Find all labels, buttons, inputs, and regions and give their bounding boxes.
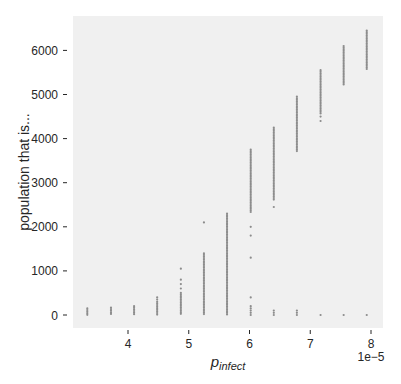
data-point — [180, 313, 182, 315]
data-point — [250, 235, 252, 237]
data-point — [366, 68, 368, 70]
data-point — [250, 305, 252, 307]
data-point — [319, 314, 321, 316]
data-point — [250, 226, 252, 228]
data-point — [250, 307, 252, 309]
scatter-chart: 0100020003000400050006000 45678 populati… — [0, 0, 401, 384]
data-point — [180, 268, 182, 270]
data-point — [273, 310, 275, 312]
data-point — [86, 314, 88, 316]
data-point — [250, 314, 252, 316]
data-point — [296, 310, 298, 312]
y-tick-label: 2000 — [31, 220, 58, 234]
data-point — [366, 314, 368, 316]
data-point — [296, 314, 298, 316]
data-point — [133, 313, 135, 315]
data-point — [180, 287, 182, 289]
data-point — [203, 313, 205, 315]
data-point — [319, 116, 321, 118]
data-point — [226, 313, 228, 315]
x-axis-label: pinfect — [210, 353, 247, 372]
y-axis-label: population that is... — [16, 113, 32, 231]
data-point — [180, 279, 182, 281]
data-point — [296, 150, 298, 152]
data-point — [273, 206, 275, 208]
data-point — [319, 120, 321, 122]
y-tick-label: 1000 — [31, 264, 58, 278]
x-tick-label: 8 — [368, 337, 375, 351]
y-tick-label: 6000 — [31, 44, 58, 58]
data-point — [273, 314, 275, 316]
data-point — [250, 296, 252, 298]
x-tick-label: 7 — [307, 337, 314, 351]
data-point — [296, 312, 298, 314]
data-point — [319, 112, 321, 114]
data-point — [156, 296, 158, 298]
data-point — [343, 314, 345, 316]
data-point — [250, 310, 252, 312]
data-point — [180, 283, 182, 285]
y-tick-label: 0 — [51, 309, 58, 323]
x-axis-ticks: 45678 — [125, 330, 375, 351]
data-point — [203, 221, 205, 223]
data-point — [156, 299, 158, 301]
data-point — [250, 312, 252, 314]
data-point — [273, 199, 275, 201]
y-tick-label: 4000 — [31, 132, 58, 146]
data-point — [156, 314, 158, 316]
x-tick-label: 6 — [246, 337, 253, 351]
y-tick-label: 3000 — [31, 176, 58, 190]
data-point — [273, 312, 275, 314]
y-axis-ticks: 0100020003000400050006000 — [31, 44, 67, 323]
y-tick-label: 5000 — [31, 88, 58, 102]
data-point — [110, 313, 112, 315]
data-point — [250, 257, 252, 259]
x-axis-offset-label: 1e−5 — [357, 350, 384, 364]
x-tick-label: 5 — [185, 337, 192, 351]
x-tick-label: 4 — [125, 337, 132, 351]
data-point — [343, 83, 345, 85]
data-point — [250, 211, 252, 213]
